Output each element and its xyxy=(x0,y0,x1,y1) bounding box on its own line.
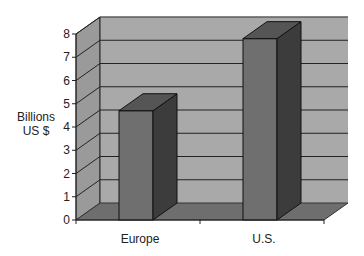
y-tick-label: 5 xyxy=(63,97,70,111)
bar-side-0 xyxy=(153,94,177,220)
y-tick-label: 2 xyxy=(63,167,70,181)
y-axis-label-line-1: Billions xyxy=(6,110,66,124)
bar-side-1 xyxy=(277,22,301,220)
y-tick-label: 3 xyxy=(63,143,70,157)
y-tick-label: 0 xyxy=(63,213,70,227)
bar-front-1 xyxy=(243,39,277,220)
floor xyxy=(76,203,348,220)
y-tick-label: 7 xyxy=(63,50,70,64)
y-tick-label: 1 xyxy=(63,190,70,204)
y-tick-label: 6 xyxy=(63,74,70,88)
x-tick-label: U.S. xyxy=(252,232,275,246)
y-tick-label: 8 xyxy=(63,27,70,41)
x-tick-label: Europe xyxy=(121,232,160,246)
y-axis-label: Billions US $ xyxy=(6,110,66,138)
bar-front-0 xyxy=(119,111,153,220)
y-axis-label-line-2: US $ xyxy=(6,124,66,138)
